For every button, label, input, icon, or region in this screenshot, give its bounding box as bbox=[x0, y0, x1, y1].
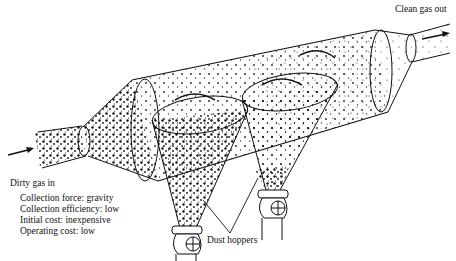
property-initial-cost: Initial cost: inexpensive bbox=[20, 215, 119, 226]
inlet-label: Dirty gas in bbox=[10, 178, 55, 189]
settling-chamber-diagram: Clean gas out Dirty gas in Dust hoppers … bbox=[0, 0, 456, 261]
outlet-label: Clean gas out bbox=[395, 4, 447, 15]
property-operating-cost: Operating cost: low bbox=[20, 226, 119, 237]
property-collection-efficiency: Collection efficiency: low bbox=[20, 204, 119, 215]
dust-hopper-2 bbox=[242, 84, 338, 240]
inlet-duct bbox=[35, 126, 90, 168]
properties-list: Collection force: gravity Collection eff… bbox=[20, 193, 119, 237]
inlet-arrow-icon bbox=[8, 147, 34, 155]
property-collection-force: Collection force: gravity bbox=[20, 193, 119, 204]
hoppers-label: Dust hoppers bbox=[207, 235, 257, 246]
outlet-duct bbox=[375, 24, 452, 112]
